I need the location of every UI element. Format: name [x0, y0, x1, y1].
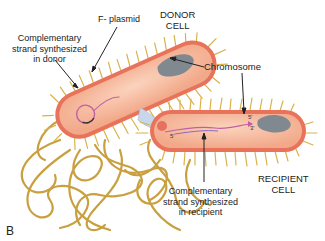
label-recipient-cell-line2: CELL [258, 185, 309, 196]
label-comp-recipient-line1: Complementary [163, 186, 238, 197]
label-comp-recipient-line2: strand synthesized [163, 197, 238, 208]
panel-label: B [6, 224, 14, 238]
strand-5prime-a: 5' [248, 114, 252, 120]
label-donor-cell: DONOR CELL [160, 10, 195, 31]
strand-3prime: 3' [250, 125, 254, 131]
label-donor-cell-line2: CELL [160, 21, 195, 32]
label-comp-recipient-line3: in recipient [163, 207, 238, 218]
label-comp-donor-line3: in donor [12, 54, 87, 65]
label-comp-donor-line2: strand synthesized [12, 44, 87, 55]
label-complementary-donor: Complementary strand synthesized in dono… [12, 33, 87, 65]
label-complementary-recipient: Complementary strand synthesized in reci… [163, 186, 238, 218]
label-f-plasmid: F- plasmid [98, 14, 140, 25]
recipient-cell: 5' 5' 3' [136, 98, 317, 166]
conjugation-diagram: 5' 5' 3' F- plasmid DONOR CELL Complemen… [0, 0, 325, 241]
recipient-plasmid-origin [157, 121, 167, 131]
label-recipient-cell-line1: RECIPIENT [258, 174, 309, 185]
label-chromosome: Chromosome [204, 62, 261, 73]
label-recipient-cell: RECIPIENT CELL [258, 174, 309, 195]
label-comp-donor-line1: Complementary [12, 33, 87, 44]
label-donor-cell-line1: DONOR [160, 10, 195, 21]
strand-5prime-b: 5' [170, 133, 174, 139]
